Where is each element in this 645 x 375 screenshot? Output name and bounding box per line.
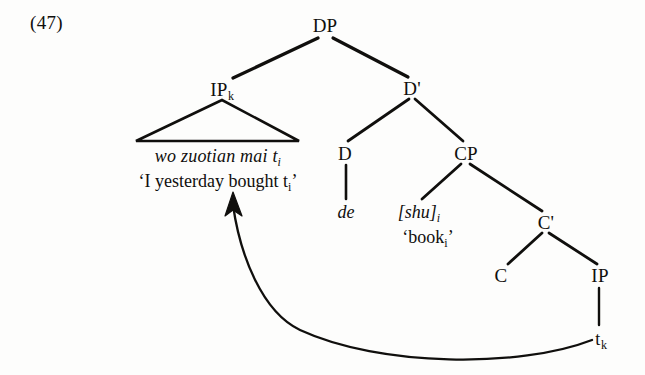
terminal-de: de	[338, 203, 355, 221]
node-d-bar-text: D'	[403, 78, 421, 99]
branch-cp-cbar	[470, 164, 542, 211]
branch-cp-shu	[422, 164, 461, 199]
branch-dp-ipk	[233, 38, 318, 78]
node-c-bar: C'	[538, 213, 555, 232]
terminal-ip-phrase: wo zuotian mai ti	[155, 147, 281, 165]
triangle-ipk	[136, 100, 299, 141]
terminal-shu: [shu]i	[398, 203, 440, 221]
node-ip-k-text: IP	[210, 79, 227, 100]
gloss-ip-open-text: ‘I yesterday bought t	[139, 171, 288, 191]
node-ip-k: IPk	[210, 80, 234, 99]
node-cp-text: CP	[454, 143, 478, 164]
terminal-shu-subscript: i	[437, 211, 440, 225]
node-c-text: C	[495, 265, 508, 286]
node-ip-k-subscript: k	[228, 89, 234, 103]
figure-canvas: (47)	[0, 0, 645, 375]
gloss-shu-close-text: ’	[448, 227, 454, 247]
node-trace-k-subscript: k	[601, 338, 607, 352]
terminal-ip-phrase-text: wo zuotian mai t	[155, 146, 278, 166]
node-dp-text: DP	[313, 15, 338, 36]
gloss-ip-subscript: i	[288, 180, 291, 194]
gloss-ip-phrase: ‘I yesterday bought ti’	[139, 172, 298, 190]
terminal-ip-phrase-subscript: i	[278, 155, 282, 169]
node-c: C	[495, 266, 508, 285]
gloss-shu-subscript: i	[444, 236, 447, 250]
node-cp: CP	[454, 144, 478, 163]
branch-dbar-d	[348, 99, 409, 141]
node-ip: IP	[591, 266, 608, 285]
node-dp: DP	[313, 16, 338, 35]
node-trace-k: tk	[595, 330, 606, 348]
node-trace-k-text: t	[595, 329, 600, 349]
gloss-ip-close-text: ’	[291, 171, 297, 191]
branch-cbar-ip	[549, 233, 597, 264]
node-d-text: D	[338, 143, 352, 164]
node-d: D	[338, 144, 352, 163]
branch-cbar-c	[508, 233, 542, 264]
terminal-shu-text: [shu]	[398, 202, 437, 222]
node-ip-text: IP	[591, 265, 608, 286]
branch-dbar-cp	[415, 99, 463, 141]
branch-dp-dbar	[333, 38, 408, 77]
node-c-bar-text: C'	[538, 212, 555, 233]
gloss-shu: ‘booki’	[402, 228, 453, 246]
tree-branch-lines	[0, 0, 645, 375]
gloss-shu-open-text: ‘book	[402, 227, 444, 247]
terminal-de-text: de	[338, 202, 355, 222]
node-d-bar: D'	[403, 79, 421, 98]
